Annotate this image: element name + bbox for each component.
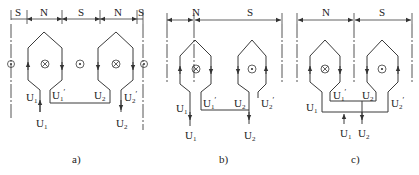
- external-terminal-u1: U1: [36, 117, 48, 131]
- panel-a: S N S N S: [8, 6, 148, 166]
- terminal-label: U2: [234, 97, 246, 111]
- panel-caption-b: b): [219, 153, 229, 166]
- coil-1-b: [180, 40, 211, 98]
- pole-label-s: S: [78, 6, 84, 18]
- cross-icon: [321, 65, 329, 73]
- cross-icon: [112, 60, 120, 68]
- external-terminal-u1: U1: [185, 129, 197, 143]
- pole-label-n: N: [114, 6, 122, 18]
- pole-label-n: N: [40, 6, 48, 18]
- panel-b: N S U1 U1′ U2 U2′: [167, 6, 282, 166]
- external-terminal-u2: U2: [116, 117, 128, 131]
- pole-label-n: N: [322, 6, 330, 18]
- cross-icon: [192, 65, 200, 73]
- pole-label-n: N: [192, 6, 200, 18]
- terminal-label: U1: [26, 91, 38, 105]
- terminal-label: U1′: [203, 96, 216, 111]
- terminal-label: U2: [94, 89, 106, 103]
- terminal-label: U1′: [333, 88, 346, 103]
- coil-1-a: [28, 32, 62, 97]
- panel-caption-a: a): [72, 153, 81, 166]
- dot-icon: [76, 60, 84, 68]
- external-terminal-u1: U1: [340, 127, 352, 141]
- dot-icon: [378, 65, 386, 73]
- coil-2-b: [238, 40, 266, 98]
- terminal-label: U2′: [124, 90, 137, 105]
- coil-2-a: [98, 32, 133, 97]
- pole-label-s: S: [379, 6, 385, 18]
- terminal-label: U2′: [261, 96, 274, 111]
- external-terminal-u2: U2: [244, 129, 256, 143]
- external-terminal-u2: U2: [358, 127, 370, 141]
- terminal-label: U1: [306, 101, 318, 115]
- pole-label-s: S: [138, 6, 144, 18]
- terminal-label: U1′: [52, 88, 65, 103]
- cross-icon: [41, 60, 49, 68]
- winding-connection-diagram: S N S N S: [0, 0, 419, 175]
- dot-icon: [248, 65, 256, 73]
- terminal-label: U2′: [391, 96, 404, 111]
- dot-icon: [141, 61, 148, 68]
- panel-c: N S U1 U1′ U2: [297, 6, 412, 166]
- panel-caption-c: c): [351, 153, 360, 166]
- terminal-label: U2: [362, 89, 374, 103]
- pole-label-s: S: [247, 6, 253, 18]
- terminal-label: U1: [176, 102, 188, 116]
- pole-label-s: S: [15, 6, 21, 18]
